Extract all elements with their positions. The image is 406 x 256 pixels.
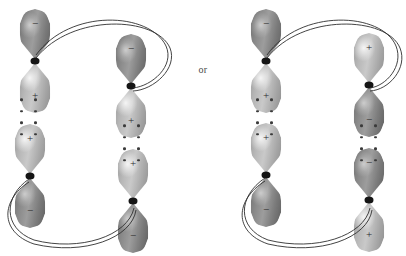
orbital-lobe-top: − bbox=[116, 34, 147, 84]
orbital-node-point bbox=[262, 172, 271, 179]
orbital-node-point bbox=[365, 82, 374, 89]
dotted-line-dot bbox=[34, 110, 37, 113]
or-separator-label: or bbox=[199, 64, 208, 75]
dotted-line-dot bbox=[123, 136, 126, 139]
dotted-line-dot bbox=[256, 122, 259, 125]
orbital-lobe-bottom: + bbox=[354, 202, 385, 252]
dotted-line-dot bbox=[360, 136, 363, 139]
orbital-lobe-shape bbox=[118, 203, 149, 253]
orbital-lobe-bottom: − bbox=[15, 178, 46, 228]
dotted-line-dot bbox=[137, 148, 140, 151]
dotted-line-dot bbox=[270, 98, 273, 101]
orbital-connection-arcs bbox=[0, 0, 406, 256]
orbital-phase-sign: − bbox=[263, 18, 269, 29]
dotted-line-dot bbox=[20, 133, 23, 136]
dotted-line-dot bbox=[360, 124, 363, 127]
orbital-diagram-figure: −+−++−+−−++−+−−+ or bbox=[0, 0, 406, 256]
p-orbital: −+ bbox=[352, 148, 386, 252]
orbital-phase-sign: − bbox=[128, 43, 134, 54]
orbital-lobe-shape bbox=[15, 178, 46, 228]
dotted-line-dot bbox=[270, 110, 273, 113]
orbital-phase-sign: − bbox=[130, 230, 136, 241]
dotted-line-dot bbox=[374, 148, 377, 151]
interaction-dotted-line bbox=[360, 124, 378, 161]
orbital-phase-sign: + bbox=[366, 42, 372, 53]
orbital-node-point bbox=[262, 58, 271, 65]
orbital-node-point bbox=[127, 83, 136, 90]
dotted-line-dot bbox=[374, 159, 377, 162]
dotted-line-dot bbox=[256, 133, 259, 136]
dotted-line-dot bbox=[374, 124, 377, 127]
p-orbital: +− bbox=[249, 123, 283, 227]
dotted-line-dot bbox=[270, 122, 273, 125]
orbital-node-point bbox=[365, 197, 374, 204]
orbital-node-point bbox=[129, 198, 138, 205]
orbital-lobe-bottom: − bbox=[251, 177, 282, 227]
dotted-line-dot bbox=[123, 159, 126, 162]
p-orbital: +− bbox=[13, 124, 47, 228]
orbital-node-point bbox=[26, 173, 35, 180]
orbital-overlap-arc bbox=[36, 24, 172, 91]
dotted-line-dot bbox=[360, 148, 363, 151]
p-orbital: +− bbox=[116, 149, 150, 253]
orbital-phase-sign: − bbox=[32, 18, 38, 29]
dotted-line-dot bbox=[256, 110, 259, 113]
dotted-line-dot bbox=[137, 124, 140, 127]
p-orbital: +− bbox=[352, 33, 386, 137]
interaction-dotted-line bbox=[256, 98, 274, 135]
dotted-line-dot bbox=[20, 110, 23, 113]
dotted-line-dot bbox=[256, 98, 259, 101]
dotted-line-dot bbox=[34, 122, 37, 125]
dotted-line-dot bbox=[34, 98, 37, 101]
p-orbital: −+ bbox=[114, 34, 148, 138]
orbital-overlap-arc bbox=[36, 20, 168, 88]
orbital-node-point bbox=[31, 58, 40, 65]
dotted-line-dot bbox=[374, 136, 377, 139]
interaction-dotted-line bbox=[20, 98, 38, 135]
dotted-line-dot bbox=[360, 159, 363, 162]
dotted-line-dot bbox=[137, 136, 140, 139]
dotted-line-dot bbox=[34, 133, 37, 136]
dotted-line-dot bbox=[270, 133, 273, 136]
dotted-line-dot bbox=[20, 122, 23, 125]
orbital-phase-sign: + bbox=[366, 229, 372, 240]
dotted-line-dot bbox=[137, 159, 140, 162]
orbital-lobe-top: − bbox=[251, 9, 282, 59]
orbital-phase-sign: − bbox=[27, 205, 33, 216]
dotted-line-dot bbox=[20, 98, 23, 101]
orbital-phase-sign: − bbox=[263, 204, 269, 215]
dotted-line-dot bbox=[123, 124, 126, 127]
orbital-lobe-shape bbox=[354, 202, 385, 252]
orbital-lobe-bottom: − bbox=[118, 203, 149, 253]
orbital-lobe-shape bbox=[251, 177, 282, 227]
interaction-dotted-line bbox=[123, 124, 141, 161]
orbital-lobe-top: − bbox=[20, 9, 51, 59]
orbital-lobe-top: + bbox=[354, 33, 385, 83]
dotted-line-dot bbox=[123, 148, 126, 151]
